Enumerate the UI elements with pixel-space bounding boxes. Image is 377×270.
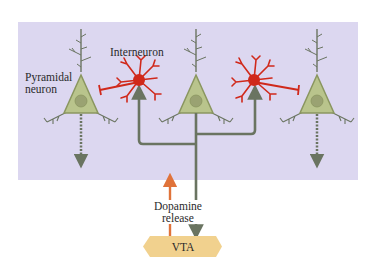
pyramidal-neuron-left xyxy=(44,29,118,161)
pyramidal-label-line1: Pyramidal xyxy=(25,71,72,83)
dopamine-label-line2: release xyxy=(144,212,212,224)
pyramidal-neuron-center xyxy=(159,29,233,124)
pyramidal-neuron-label: Pyramidal neuron xyxy=(25,71,72,95)
vta-label: VTA xyxy=(143,236,223,258)
dopamine-release-label: Dopamine release xyxy=(144,200,212,224)
interneuron-label: Interneuron xyxy=(110,46,164,58)
pyramidal-neuron-right xyxy=(280,29,354,161)
dopamine-label-line1: Dopamine xyxy=(144,200,212,212)
circuit-diagram xyxy=(0,0,377,270)
pyramidal-label-line2: neuron xyxy=(25,83,72,95)
